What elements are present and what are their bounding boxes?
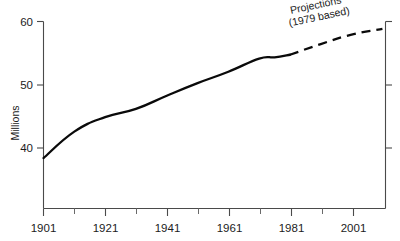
x-tick-label-1961: 1961 bbox=[217, 222, 243, 234]
chart-canvas: 60 50 40 Millions 1901 1921 bbox=[0, 0, 400, 241]
series-projection-line bbox=[290, 29, 382, 55]
projections-annotation: Projections (1979 based) bbox=[285, 0, 351, 29]
x-ticks-group bbox=[44, 209, 354, 217]
x-tick-label-1981: 1981 bbox=[279, 222, 305, 234]
y-tick-labels: 60 50 40 bbox=[20, 16, 33, 154]
series-actual-line bbox=[44, 55, 290, 158]
y-axis-title: Millions bbox=[9, 105, 21, 140]
population-line-chart: 60 50 40 Millions 1901 1921 bbox=[0, 0, 400, 241]
y-tick-label-40: 40 bbox=[20, 142, 33, 154]
axes-group bbox=[37, 22, 392, 209]
y-tick-label-50: 50 bbox=[20, 79, 33, 91]
y-tick-label-60: 60 bbox=[20, 16, 33, 28]
x-tick-label-1941: 1941 bbox=[155, 222, 181, 234]
data-series-group bbox=[44, 29, 383, 158]
y-axis-title-group: Millions bbox=[9, 105, 21, 140]
x-tick-label-2001: 2001 bbox=[341, 222, 367, 234]
x-tick-label-1921: 1921 bbox=[93, 222, 119, 234]
x-tick-labels: 1901 1921 1941 1961 1981 2001 bbox=[31, 222, 367, 234]
x-tick-label-1901: 1901 bbox=[31, 222, 57, 234]
